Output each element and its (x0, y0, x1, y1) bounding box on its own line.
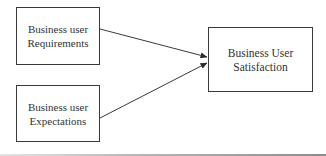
node-label: Business user Expectations (28, 100, 88, 128)
bottom-divider (0, 154, 326, 156)
arrow-expectations-to-satisfaction (100, 63, 207, 118)
node-business-user-satisfaction: Business User Satisfaction (208, 27, 313, 92)
node-label: Business User Satisfaction (228, 46, 294, 74)
node-business-user-requirements: Business user Requirements (16, 7, 100, 65)
node-business-user-expectations: Business user Expectations (16, 85, 100, 142)
diagram-canvas: Business user Requirements Business user… (0, 0, 326, 156)
arrow-requirements-to-satisfaction (100, 29, 207, 57)
node-label: Business user Requirements (27, 22, 88, 50)
